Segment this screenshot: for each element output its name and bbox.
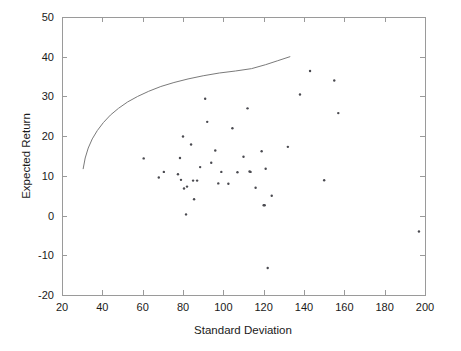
data-point [231, 127, 233, 129]
data-point [206, 121, 208, 123]
data-point [287, 146, 289, 148]
data-point [182, 135, 184, 137]
data-point [217, 182, 219, 184]
data-point [337, 112, 339, 114]
data-point [333, 79, 335, 81]
y-axis-title: Expected Return [20, 113, 32, 199]
y-tick-label: 30 [42, 90, 54, 102]
efficient-frontier-curve [83, 57, 290, 169]
y-tick-label: 10 [42, 170, 54, 182]
data-point [236, 171, 238, 173]
y-tick-label: 40 [42, 51, 54, 63]
data-point [246, 107, 248, 109]
y-axis-tick-labels: -20-1001020304050 [38, 11, 54, 301]
x-tick-label: 100 [214, 301, 232, 313]
data-point [214, 149, 216, 151]
data-point [309, 70, 311, 72]
data-point [267, 267, 269, 269]
x-tick-label: 20 [56, 301, 68, 313]
data-point [299, 93, 301, 95]
data-point [418, 230, 420, 232]
data-point [183, 187, 185, 189]
x-tick-label: 180 [375, 301, 393, 313]
y-tick-label: 0 [48, 210, 54, 222]
x-tick-label: 80 [177, 301, 189, 313]
data-point [254, 187, 256, 189]
data-point [260, 150, 262, 152]
data-point [263, 204, 265, 206]
data-points-group [142, 70, 420, 269]
data-point [264, 168, 266, 170]
chart-figure: 20406080100120140160180200 -20-100102030… [0, 0, 461, 351]
x-tick-label: 140 [295, 301, 313, 313]
data-point [199, 166, 201, 168]
data-point [210, 162, 212, 164]
data-point [186, 185, 188, 187]
data-point [158, 176, 160, 178]
data-point [242, 156, 244, 158]
data-point [179, 157, 181, 159]
data-point [163, 171, 165, 173]
y-tick-label: -10 [38, 249, 54, 261]
frontier-path [83, 57, 290, 169]
x-axis-title: Standard Deviation [194, 324, 292, 336]
x-tick-label: 120 [254, 301, 272, 313]
data-point [249, 171, 251, 173]
data-point [177, 173, 179, 175]
data-point [220, 171, 222, 173]
data-point [196, 179, 198, 181]
data-point [180, 179, 182, 181]
data-point [323, 179, 325, 181]
data-point [185, 213, 187, 215]
data-point [227, 183, 229, 185]
x-tick-label: 40 [96, 301, 108, 313]
x-axis-tick-labels: 20406080100120140160180200 [56, 301, 434, 313]
y-tick-label: -20 [38, 289, 54, 301]
data-point [204, 98, 206, 100]
x-tick-label: 60 [137, 301, 149, 313]
y-tick-label: 20 [42, 130, 54, 142]
data-point [193, 198, 195, 200]
data-point [190, 143, 192, 145]
x-tick-label: 200 [416, 301, 434, 313]
y-tick-label: 50 [42, 11, 54, 23]
x-tick-label: 160 [335, 301, 353, 313]
data-point [271, 195, 273, 197]
data-point [192, 179, 194, 181]
data-point [142, 157, 144, 159]
scatter-plot: 20406080100120140160180200 -20-100102030… [0, 0, 461, 351]
